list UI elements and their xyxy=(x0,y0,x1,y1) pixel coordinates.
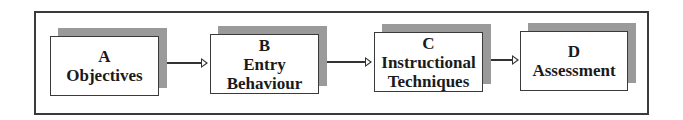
arrow-head-icon xyxy=(365,57,372,67)
node-c-instructional-techniques: C Instructional Techniques xyxy=(374,32,483,92)
node-b-letter: B xyxy=(259,36,270,55)
arrow-c-to-d xyxy=(491,59,513,61)
arrow-head-icon xyxy=(201,58,208,68)
arrow-head-icon xyxy=(512,55,519,65)
arrow-a-to-b xyxy=(167,62,202,64)
node-c-letter: C xyxy=(422,34,434,53)
node-b-label-line-2: Behaviour xyxy=(227,74,303,93)
node-c-label-line-2: Techniques xyxy=(388,72,470,91)
node-d-letter: D xyxy=(568,42,580,61)
node-b-label-line-1: Entry xyxy=(243,55,286,74)
node-b-entry-behaviour: B Entry Behaviour xyxy=(210,34,319,94)
arrow-b-to-c xyxy=(327,61,366,63)
node-d-assessment: D Assessment xyxy=(520,31,628,91)
node-c-label-line-1: Instructional xyxy=(381,53,475,72)
node-a-letter: A xyxy=(98,47,110,66)
node-d-label: Assessment xyxy=(532,61,615,80)
node-a-objectives: A Objectives xyxy=(50,36,159,96)
node-a-label: Objectives xyxy=(66,66,142,85)
